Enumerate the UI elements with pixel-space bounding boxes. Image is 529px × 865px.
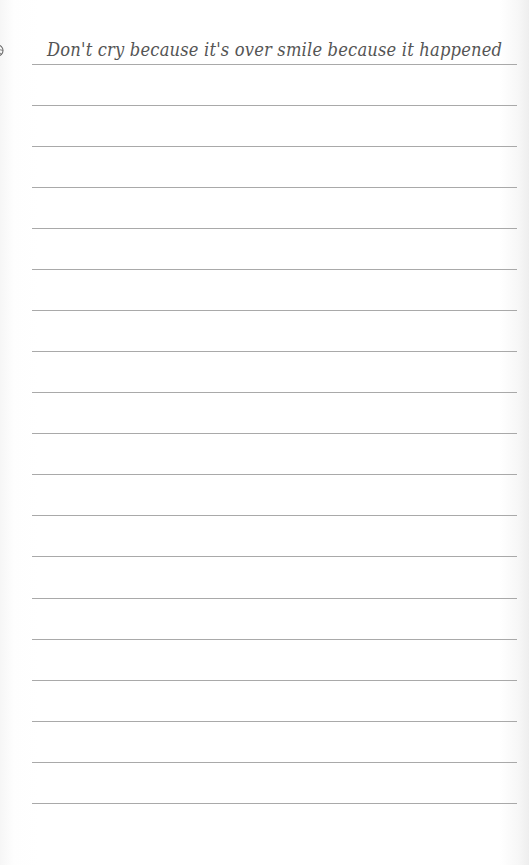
ruled-line <box>32 392 517 393</box>
ruled-line <box>32 474 517 475</box>
flower-spiral-icon <box>0 44 4 57</box>
ruled-line <box>32 515 517 516</box>
ruled-line <box>32 269 517 270</box>
ruled-line <box>32 187 517 188</box>
ruled-line <box>32 310 517 311</box>
ruled-line <box>32 598 517 599</box>
ruled-line <box>32 351 517 352</box>
ruled-line <box>32 556 517 557</box>
page-header: Don't cry because it's over smile becaus… <box>32 30 517 64</box>
ruled-line <box>32 105 517 106</box>
ruled-line <box>32 433 517 434</box>
ruled-line <box>32 228 517 229</box>
ruled-line <box>32 639 517 640</box>
ruled-line <box>32 146 517 147</box>
ruled-line <box>32 762 517 763</box>
header-quote: Don't cry because it's over smile becaus… <box>47 38 502 64</box>
ruled-line <box>32 721 517 722</box>
notebook-page: Don't cry because it's over smile becaus… <box>0 0 529 865</box>
ruled-line <box>32 803 517 804</box>
ruled-line <box>32 680 517 681</box>
ruled-line <box>32 64 517 65</box>
